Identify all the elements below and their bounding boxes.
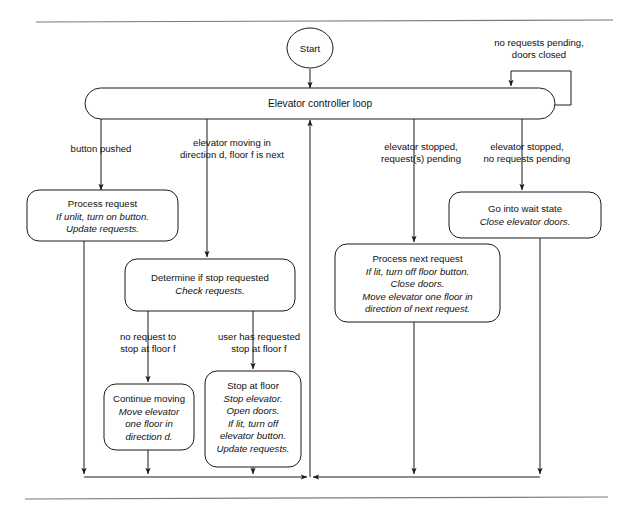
flowchart-page: Start Elevator controller loop Process r… [0,0,623,521]
process-request-node: Process request If unlit, turn on button… [27,190,178,241]
stopped-pending-label-line-1: request(s) pending [381,153,461,164]
start-node: Start [287,28,333,68]
no-request-stop-label-line-1: stop at floor f [120,343,176,354]
no-request-stop-label-line-0: no request to [120,331,176,342]
self-loop-label-line-0: no requests pending, [494,37,584,48]
process-next-request-node: Process next request If lit, turn off fl… [335,244,500,322]
elevator-controller-loop: Elevator controller loop [85,88,555,119]
stopped-pending-label-line-0: elevator stopped, [384,141,458,152]
stop-at-floor-detail-4: Update requests. [216,443,289,454]
elevator-moving-label-line-0: elevator moving in [193,137,271,148]
continue-moving-node: Continue moving Move elevator one floor … [104,384,194,450]
determine-if-stop-requested-node: Determine if stop requested Check reques… [125,259,295,311]
process-next-request-title: Process next request [372,253,462,264]
process-next-request-detail-2: Move elevator one floor in [362,291,472,302]
bottom-rule [25,497,608,499]
stop-at-floor-node: Stop at floor Stop elevator. Open doors.… [205,371,301,467]
continue-moving-detail-2: direction d. [126,431,173,442]
stopped-no-pending-label-line-0: elevator stopped, [490,141,564,152]
determine-stop-title: Determine if stop requested [151,272,269,283]
continue-moving-title: Continue moving [113,393,185,404]
determine-stop-detail-0: Check requests. [175,285,244,296]
stop-at-floor-detail-3: elevator button. [220,430,286,441]
edge-label-user-requested-stop: user has requested stop at floor f [218,331,300,354]
go-into-wait-state-node: Go into wait state Close elevator doors. [449,192,601,238]
user-requested-stop-label-line-1: stop at floor f [231,343,287,354]
edge-label-button-pushed: button pushed [71,143,132,154]
stopped-no-pending-label-line-1: no requests pending [484,153,571,164]
edge-label-stopped-no-pending: elevator stopped, no requests pending [484,141,571,164]
edge-label-stopped-pending: elevator stopped, request(s) pending [381,141,461,164]
process-next-request-detail-1: Close doors. [391,278,445,289]
process-request-title: Process request [68,198,138,209]
stop-at-floor-detail-2: If lit, turn off [228,418,279,429]
elevator-moving-label-line-1: direction d, floor f is next [180,149,284,160]
edge-label-no-request-to-stop: no request to stop at floor f [120,331,176,354]
edge-label-self-loop: no requests pending, doors closed [494,37,584,60]
continue-moving-detail-1: one floor in [125,418,172,429]
self-loop-label-line-1: doors closed [512,49,566,60]
stop-at-floor-detail-1: Open doors. [227,405,280,416]
stop-at-floor-detail-0: Stop elevator. [224,393,283,404]
process-next-request-detail-3: direction of next request. [365,303,470,314]
loop-label: Elevator controller loop [268,98,373,109]
process-request-detail-0: If unlit, turn on button. [56,211,149,222]
elevator-controller-flowchart: Start Elevator controller loop Process r… [0,0,623,521]
process-next-request-detail-0: If lit, turn off floor button. [366,266,469,277]
start-node-label: Start [300,43,321,54]
edge-label-elevator-moving: elevator moving in direction d, floor f … [180,137,284,160]
button-pushed-label: button pushed [71,143,132,154]
continue-moving-detail-0: Move elevator [119,406,180,417]
stop-at-floor-title: Stop at floor [227,380,280,391]
wait-state-detail-0: Close elevator doors. [480,216,571,227]
wait-state-title: Go into wait state [488,203,562,214]
process-request-detail-1: Update requests. [66,223,139,234]
top-rule [36,20,613,22]
user-requested-stop-label-line-0: user has requested [218,331,300,342]
